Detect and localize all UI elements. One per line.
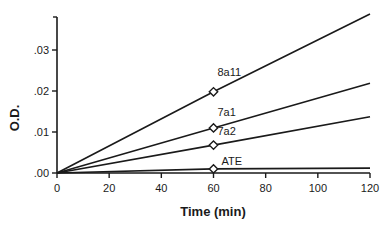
diamond-marker-icon	[209, 141, 217, 149]
series-label-7a2: 7a2	[218, 125, 236, 137]
x-tick-label: 100	[309, 182, 327, 194]
series-label-ate: ATE	[222, 155, 243, 167]
x-tick-label: 40	[155, 182, 167, 194]
series-label-8a11: 8a11	[218, 66, 242, 78]
y-tick-label: .00	[34, 167, 49, 179]
diamond-marker-icon	[209, 124, 217, 132]
y-tick-label: .01	[34, 126, 49, 138]
x-tick-label: 120	[361, 182, 379, 194]
y-tick-label: .03	[34, 44, 49, 56]
x-tick-label: 0	[54, 182, 60, 194]
y-axis-label: O.D.	[7, 105, 22, 132]
diamond-marker-icon	[209, 88, 217, 96]
series-label-7a1: 7a1	[218, 106, 236, 118]
od-vs-time-chart: .00.01.02.03020406080100120 8a117a17a2AT…	[0, 0, 387, 229]
y-tick-label: .02	[34, 85, 49, 97]
x-tick-label: 60	[207, 182, 219, 194]
series-lines: 8a117a17a2ATE	[57, 14, 370, 173]
diamond-marker-icon	[209, 165, 217, 173]
x-tick-label: 20	[103, 182, 115, 194]
x-tick-label: 80	[260, 182, 272, 194]
x-axis-label: Time (min)	[180, 204, 246, 219]
